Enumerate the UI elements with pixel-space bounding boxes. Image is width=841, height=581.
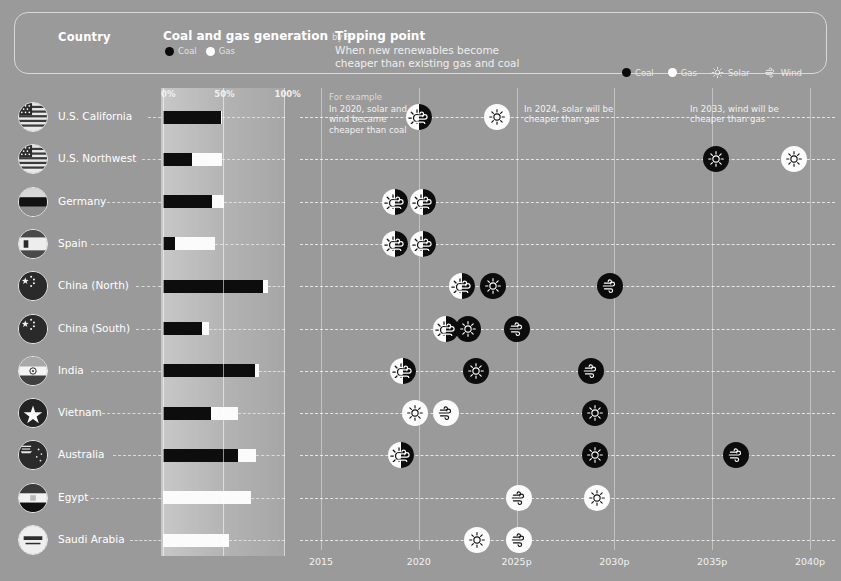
tipping-marker-solar-vs-gas[interactable] xyxy=(464,527,490,553)
timeline-gridline xyxy=(614,88,615,550)
solar-wind-split-icon xyxy=(382,231,408,257)
country-label: Vietnam xyxy=(58,406,102,418)
tipping-marker-solar-wind-vs-coal[interactable] xyxy=(410,231,436,257)
timeline-row-line xyxy=(300,371,835,372)
gas-dot-icon xyxy=(206,47,215,56)
generation-bar xyxy=(163,280,268,293)
timeline-axis-tick: 2020 xyxy=(407,556,431,567)
bar-segment-coal xyxy=(163,237,175,250)
bar-trailing-dots xyxy=(251,498,285,499)
bar-trailing-dots xyxy=(215,244,285,245)
bar-segment-coal xyxy=(163,280,263,293)
bar-axis-tick: 100% xyxy=(275,89,301,99)
legend-coal-label: Coal xyxy=(178,46,197,56)
tipping-marker-solar-wind-vs-gas[interactable] xyxy=(449,273,475,299)
tipping-marker-solar-vs-gas[interactable] xyxy=(584,485,610,511)
country-label: Germany xyxy=(58,195,106,207)
generation-bar xyxy=(163,153,222,166)
generation-bar xyxy=(163,449,256,462)
tipping-legend-label: Solar xyxy=(728,68,750,78)
timeline-gridline xyxy=(321,88,322,550)
tipping-marker-solar-vs-coal[interactable] xyxy=(463,358,489,384)
tipping-marker-solar-wind-vs-gas[interactable] xyxy=(382,231,408,257)
tipping-marker-solar-vs-coal[interactable] xyxy=(582,400,608,426)
tipping-marker-solar-wind-vs-gas[interactable] xyxy=(388,442,414,468)
timeline-row-line xyxy=(300,540,835,541)
tipping-marker-solar-wind-vs-gas[interactable] xyxy=(382,189,408,215)
label-leader-line xyxy=(136,329,161,330)
timeline-axis-tick: 2025p xyxy=(501,556,531,567)
legend-coal: Coal xyxy=(165,46,197,56)
tipping-marker-solar-vs-gas[interactable] xyxy=(781,146,807,172)
header-generation-title: Coal and gas generation by % xyxy=(163,29,353,43)
bar-axis-tick: 0% xyxy=(161,89,175,99)
bar-segment-coal xyxy=(163,364,255,377)
tipping-marker-wind-vs-coal[interactable] xyxy=(723,442,749,468)
bar-segment-gas xyxy=(211,407,238,420)
tipping-marker-wind-vs-gas[interactable] xyxy=(433,400,459,426)
wind-icon xyxy=(578,358,604,384)
timeline-gridline xyxy=(810,88,811,550)
solar-wind-split-icon xyxy=(390,358,416,384)
tipping-marker-wind-vs-gas[interactable] xyxy=(506,527,532,553)
country-label: U.S. California xyxy=(58,110,132,122)
country-flag-icon xyxy=(18,483,48,513)
legend-gas: Gas xyxy=(206,46,235,56)
timeline-row-line xyxy=(300,159,835,160)
generation-bar xyxy=(163,111,222,124)
timeline-gridline xyxy=(419,88,420,550)
bar-gridline xyxy=(284,88,285,556)
bar-segment-coal xyxy=(163,153,192,166)
solar-icon xyxy=(484,104,510,130)
coal-dot-icon xyxy=(622,68,631,77)
country-flag-icon xyxy=(18,229,48,259)
country-flag-icon xyxy=(18,144,48,174)
country-flag-icon xyxy=(18,356,48,386)
tipping-marker-solar-vs-coal[interactable] xyxy=(480,273,506,299)
tipping-point-description: When new renewables become cheaper than … xyxy=(335,44,519,70)
tipping-marker-solar-wind-vs-coal[interactable] xyxy=(410,189,436,215)
tipping-legend-label: Gas xyxy=(681,68,697,78)
tipping-marker-solar-vs-gas[interactable] xyxy=(484,104,510,130)
tipping-line-1: When new renewables become xyxy=(335,44,519,57)
wind-icon xyxy=(504,316,530,342)
tipping-legend-label: Wind xyxy=(781,68,802,78)
country-label: Spain xyxy=(58,237,87,249)
timeline-axis-tick: 2040p xyxy=(795,556,825,567)
tipping-marker-solar-vs-coal[interactable] xyxy=(582,442,608,468)
bar-trailing-dots xyxy=(268,286,285,287)
generation-bar xyxy=(163,491,251,504)
tipping-legend-label: Coal xyxy=(635,68,654,78)
timeline-row-line xyxy=(300,286,835,287)
tipping-marker-solar-vs-gas[interactable] xyxy=(402,400,428,426)
bar-gridline xyxy=(223,88,224,556)
tipping-legend-item-coal: Coal xyxy=(622,68,654,78)
country-flag-icon xyxy=(18,271,48,301)
solar-icon xyxy=(703,146,729,172)
tipping-marker-solar-wind-vs-gas[interactable] xyxy=(390,358,416,384)
bar-segment-gas xyxy=(202,322,209,335)
tipping-marker-wind-vs-coal[interactable] xyxy=(578,358,604,384)
generation-bar xyxy=(163,195,224,208)
solar-wind-split-icon xyxy=(449,273,475,299)
generation-legend: Coal Gas xyxy=(165,46,235,56)
generation-bar xyxy=(163,407,238,420)
generation-bar xyxy=(163,364,259,377)
bar-trailing-dots xyxy=(229,540,285,541)
tipping-marker-wind-vs-coal[interactable] xyxy=(597,273,623,299)
tipping-marker-wind-vs-gas[interactable] xyxy=(506,485,532,511)
legend-gas-label: Gas xyxy=(219,46,235,56)
tipping-marker-solar-vs-coal[interactable] xyxy=(455,316,481,342)
solar-icon xyxy=(463,358,489,384)
country-label: Saudi Arabia xyxy=(58,533,125,545)
timeline-axis-tick: 2015 xyxy=(309,556,333,567)
country-flag-icon xyxy=(18,187,48,217)
solar-wind-split-icon xyxy=(382,189,408,215)
solar-icon xyxy=(455,316,481,342)
generation-bar xyxy=(163,534,229,547)
header-panel: Country Coal and gas generation by % Coa… xyxy=(14,12,827,74)
wind-icon xyxy=(506,527,532,553)
tipping-marker-solar-vs-coal[interactable] xyxy=(703,146,729,172)
label-leader-line xyxy=(102,202,161,203)
tipping-marker-wind-vs-coal[interactable] xyxy=(504,316,530,342)
